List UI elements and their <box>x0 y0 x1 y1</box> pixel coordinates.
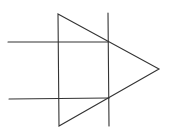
horizontal-line-bottom <box>9 98 109 99</box>
vertical-line <box>108 13 109 126</box>
geometric-diagram <box>0 0 170 140</box>
